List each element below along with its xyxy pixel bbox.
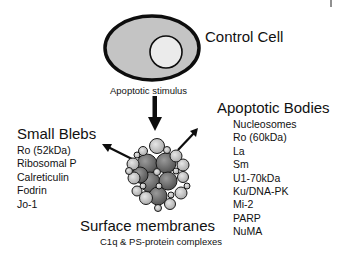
small-blebs-item: Fodrin bbox=[17, 184, 77, 197]
small-blebs-item: Ro (52kDa) bbox=[17, 144, 77, 157]
arrow-to-apoptotic-bodies-icon bbox=[178, 128, 198, 150]
apoptotic-bodies-item: La bbox=[233, 145, 297, 158]
small-blebs-title: Small Blebs bbox=[17, 126, 96, 142]
apoptotic-bodies-item: Ro (60kDa) bbox=[233, 131, 297, 144]
apoptotic-bodies-list: Nucleosomes Ro (60kDa) La Sm U1-70kDa Ku… bbox=[233, 118, 297, 239]
apoptotic-bodies-title: Apoptotic Bodies bbox=[217, 100, 330, 116]
arrow-to-small-blebs-icon bbox=[102, 144, 134, 160]
surface-membranes-subtitle: C1q & PS-protein complexes bbox=[100, 235, 222, 248]
apoptotic-bodies-item: Mi-2 bbox=[233, 198, 297, 211]
down-arrow-icon bbox=[148, 96, 162, 131]
control-cell-icon bbox=[105, 16, 199, 80]
surface-membranes-title: Surface membranes bbox=[80, 218, 215, 234]
apoptotic-bodies-item: NuMA bbox=[233, 225, 297, 238]
apoptotic-bodies-item: PARP bbox=[233, 212, 297, 225]
small-blebs-item: Ribosomal P bbox=[17, 157, 77, 170]
apoptotic-bodies-item: U1-70kDa bbox=[233, 172, 297, 185]
apoptotic-stimulus-label: Apoptotic stimulus bbox=[110, 84, 187, 97]
small-blebs-item: Calreticulin bbox=[17, 171, 77, 184]
control-cell-label: Control Cell bbox=[205, 29, 283, 45]
apoptotic-bodies-item: Nucleosomes bbox=[233, 118, 297, 131]
apoptotic-cell-cluster-icon bbox=[126, 139, 191, 212]
small-blebs-item: Jo-1 bbox=[17, 198, 77, 211]
small-blebs-list: Ro (52kDa) Ribosomal P Calreticulin Fodr… bbox=[17, 144, 77, 211]
apoptotic-bodies-item: Sm bbox=[233, 158, 297, 171]
apoptotic-bodies-item: Ku/DNA-PK bbox=[233, 185, 297, 198]
